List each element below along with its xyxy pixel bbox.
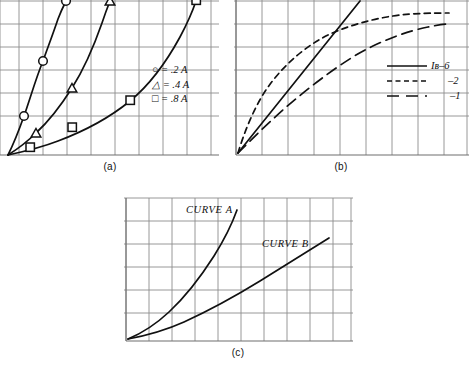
legend-label-1: –1 [450, 90, 461, 101]
legend-short-dash-swatch [386, 77, 428, 85]
panel-c-plot [124, 198, 353, 342]
legend-row-short-dash: –2 [386, 73, 461, 88]
caption-c: (c) [208, 347, 268, 358]
panel-b-legend: Iʙ–6 –2 –1 [386, 58, 461, 103]
legend-item-square: □ = .8 A [152, 92, 189, 107]
caption-a: (a) [80, 161, 140, 172]
legend-row-long-dash: –1 [386, 88, 461, 103]
panel-c-label-curve-b: CURVE B [262, 238, 309, 249]
panel-c-curve-a [128, 210, 237, 339]
legend-row-solid: Iʙ–6 [386, 58, 461, 73]
panel-a-legend: ○ = .2 A △ = .4 A □ = .8 A [152, 63, 189, 107]
legend-label-2: –2 [448, 75, 459, 86]
legend-label-ib6: Iʙ–6 [431, 60, 450, 71]
panel-c-curve-b [128, 238, 329, 339]
legend-long-dash-swatch [386, 92, 428, 100]
legend-solid-swatch [386, 62, 428, 70]
caption-b: (b) [311, 161, 371, 172]
panel-b: Iʙ–6 –2 –1 [234, 0, 469, 156]
legend-item-circle: ○ = .2 A [152, 63, 189, 78]
panel-c: CURVE A CURVE B [124, 198, 353, 342]
panel-c-label-curve-a: CURVE A [186, 204, 233, 215]
panel-a: ○ = .2 A △ = .4 A □ = .8 A [0, 0, 219, 156]
legend-item-triangle: △ = .4 A [152, 78, 189, 93]
panel-c-gridlines [124, 198, 353, 341]
